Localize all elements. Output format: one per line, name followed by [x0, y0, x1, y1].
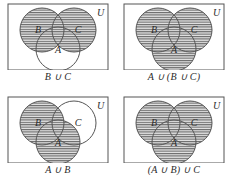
- panel-caption-1: A ∪ (B ∪ C): [116, 71, 232, 82]
- venn-diagram-figure: U B C A B ∪ C U B: [0, 0, 232, 185]
- panel-caption-3: (A ∪ B) ∪ C: [116, 164, 232, 175]
- venn-panel-2: U B C A A ∪ B: [0, 93, 116, 185]
- label-b: B: [35, 24, 41, 35]
- label-b: B: [151, 117, 157, 128]
- shaded-region-group: [20, 101, 80, 163]
- venn-diagram-3: U B C A: [116, 93, 232, 163]
- universe-label: U: [97, 100, 105, 111]
- panel-caption-0: B ∪ C: [0, 71, 116, 82]
- label-c: C: [191, 24, 198, 35]
- panel-caption-2: A ∪ B: [0, 164, 116, 175]
- shaded-region-group: [136, 8, 212, 70]
- universe-label: U: [213, 100, 221, 111]
- venn-panel-1: U B C A A ∪ (B ∪ C): [116, 0, 232, 92]
- venn-panel-0: U B C A B ∪ C: [0, 0, 116, 92]
- label-a: A: [54, 137, 62, 148]
- label-c: C: [191, 117, 198, 128]
- shaded-region-group: [136, 101, 212, 163]
- venn-diagram-1: U B C A: [116, 0, 232, 70]
- label-a: A: [170, 137, 178, 148]
- label-c: C: [75, 24, 82, 35]
- label-a: A: [54, 44, 62, 55]
- universe-label: U: [97, 7, 105, 18]
- venn-panel-3: U B C A (A ∪ B) ∪ C: [116, 93, 232, 185]
- label-a: A: [170, 44, 178, 55]
- universe-label: U: [213, 7, 221, 18]
- label-b: B: [151, 24, 157, 35]
- venn-diagram-2: U B C A: [0, 93, 116, 163]
- label-c: C: [75, 117, 82, 128]
- venn-diagram-0: U B C A: [0, 0, 116, 70]
- label-b: B: [35, 117, 41, 128]
